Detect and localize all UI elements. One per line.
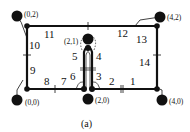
edge-label: 6 [70,70,76,82]
edge-label: 3 [96,70,102,82]
graph-diagram: (0,2) (4,2) (0,0) (4,0) (2,0) (2,1) 1 2 … [0,0,190,132]
terminal-label: (0,0) [25,98,40,107]
terminal-label: (0,2) [24,10,39,19]
edge-label: 10 [29,39,41,51]
edge-label: 2 [109,75,115,87]
terminal-4-2 [155,12,166,23]
node-top-left [24,23,30,29]
terminal-2-1 [83,34,94,45]
center-loop [84,46,92,89]
terminal-label: (4,2) [167,13,182,22]
node-loop-top [85,45,91,51]
node-loop-right [89,86,95,92]
terminal-label: (4,0) [169,97,184,106]
edge-label: 4 [96,50,102,62]
node-bottom-right [154,86,160,92]
terminal-label: (2,1) [64,37,79,46]
edge-label: 11 [44,28,55,40]
figure-caption: (a) [81,118,92,130]
edge-label: 5 [72,50,78,62]
terminal-label: (2,0) [95,96,110,105]
terminal-0-2 [12,11,23,22]
terminal-0-0 [12,95,23,106]
node-loop-left [81,86,87,92]
edge-label: 9 [30,64,36,76]
edge-label: 8 [44,75,50,87]
edge-label: 12 [117,27,128,39]
node-bottom-left [24,86,30,92]
edge-label: 13 [136,33,148,45]
terminal-4-0 [157,95,168,106]
loop-outer [84,46,92,89]
edge-label: 14 [139,56,151,68]
edge-label: 7 [61,75,67,87]
edge-label: 1 [130,75,136,87]
terminal-2-0 [83,94,94,105]
node-top-right [154,23,160,29]
